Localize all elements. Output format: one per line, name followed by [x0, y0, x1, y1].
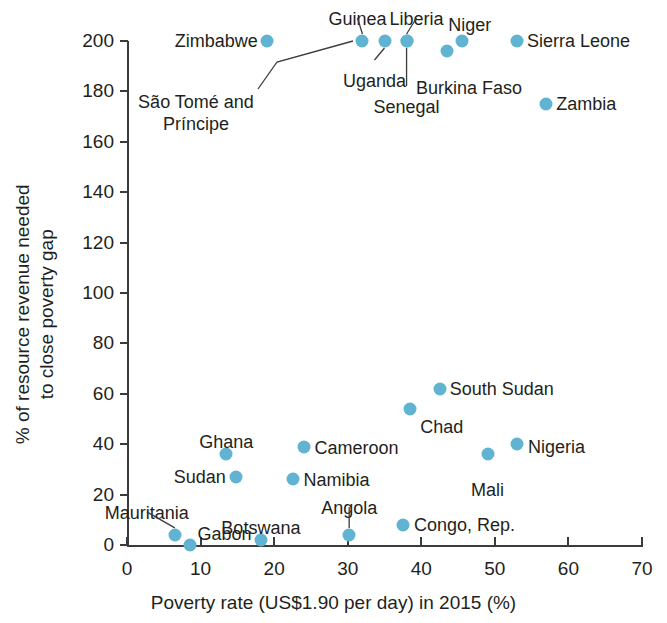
data-point[interactable]	[404, 402, 417, 415]
data-point-label: Congo, Rep.	[414, 515, 515, 535]
x-tick-label: 0	[122, 558, 133, 580]
y-tick-mark	[120, 191, 128, 193]
y-axis-title-line-2: to close poverty gap	[35, 104, 59, 524]
y-tick-mark	[120, 90, 128, 92]
data-point-label: Nigeria	[528, 437, 585, 457]
data-point[interactable]	[433, 382, 446, 395]
x-tick-label: 20	[264, 558, 285, 580]
data-point[interactable]	[229, 470, 242, 483]
x-tick-mark	[494, 537, 496, 545]
y-tick-mark	[120, 342, 128, 344]
data-point[interactable]	[356, 35, 369, 48]
data-point-label: Namibia	[304, 470, 370, 490]
data-point[interactable]	[260, 35, 273, 48]
y-tick-mark	[120, 242, 128, 244]
y-tick-label: 180	[56, 80, 114, 102]
data-point-label: Mali	[471, 480, 504, 500]
annotation-text: Príncipe	[163, 114, 229, 134]
y-tick-mark	[120, 292, 128, 294]
data-point-label: South Sudan	[450, 379, 554, 399]
data-point-label: Zambia	[556, 94, 616, 114]
data-point[interactable]	[540, 98, 553, 111]
data-point[interactable]	[481, 448, 494, 461]
data-point[interactable]	[396, 518, 409, 531]
x-tick-label: 70	[631, 558, 652, 580]
x-tick-mark	[641, 537, 643, 545]
data-point-label: Botswana	[221, 518, 300, 538]
y-tick-label: 120	[56, 232, 114, 254]
x-tick-mark	[567, 537, 569, 545]
y-tick-label: 140	[56, 181, 114, 203]
data-point-label: Uganda	[343, 71, 406, 91]
y-tick-mark	[120, 443, 128, 445]
annotation-text: São Tomé and	[138, 92, 254, 112]
plot-area: 010203040506070 020406080100120140160180…	[0, 0, 667, 623]
y-tick-label: 0	[56, 534, 114, 556]
y-tick-mark	[120, 40, 128, 42]
data-point[interactable]	[183, 539, 196, 552]
y-tick-label: 80	[56, 332, 114, 354]
data-point-label: Guinea	[328, 9, 386, 29]
data-point-label: Mauritania	[105, 503, 189, 523]
data-point-label: Niger	[448, 15, 491, 35]
y-tick-label: 100	[56, 282, 114, 304]
data-point[interactable]	[400, 35, 413, 48]
x-axis-line	[127, 545, 643, 547]
data-point[interactable]	[510, 35, 523, 48]
data-point-label: Burkina Faso	[416, 78, 522, 98]
data-point[interactable]	[168, 528, 181, 541]
data-point[interactable]	[441, 45, 454, 58]
data-point[interactable]	[510, 438, 523, 451]
data-point-label: Cameroon	[315, 438, 399, 458]
data-point[interactable]	[297, 440, 310, 453]
data-point-label: Sudan	[174, 467, 226, 487]
x-tick-label: 10	[190, 558, 211, 580]
y-tick-mark	[120, 544, 128, 546]
x-tick-label: 50	[484, 558, 505, 580]
x-tick-label: 40	[411, 558, 432, 580]
y-tick-mark	[120, 494, 128, 496]
y-axis-line	[127, 41, 129, 547]
data-point[interactable]	[455, 35, 468, 48]
data-point-label: Zimbabwe	[175, 31, 258, 51]
data-point-label: Chad	[420, 417, 463, 437]
y-tick-label: 40	[56, 433, 114, 455]
x-tick-label: 60	[558, 558, 579, 580]
y-tick-label: 60	[56, 383, 114, 405]
x-tick-mark	[273, 537, 275, 545]
data-point-label: Sierra Leone	[527, 31, 630, 51]
data-point[interactable]	[286, 473, 299, 486]
y-tick-mark	[120, 141, 128, 143]
x-axis-title: Poverty rate (US$1.90 per day) in 2015 (…	[0, 592, 667, 614]
y-axis-title-line-1: % of resource revenue needed	[11, 104, 35, 524]
y-tick-mark	[120, 393, 128, 395]
scatter-chart: 010203040506070 020406080100120140160180…	[0, 0, 667, 623]
data-point-label: Angola	[321, 498, 377, 518]
x-tick-label: 30	[337, 558, 358, 580]
data-point-label: Ghana	[199, 432, 253, 452]
y-tick-label: 160	[56, 131, 114, 153]
data-point[interactable]	[343, 528, 356, 541]
x-tick-mark	[420, 537, 422, 545]
data-point[interactable]	[378, 35, 391, 48]
y-axis-title: % of resource revenue needed to close po…	[11, 104, 60, 524]
data-point-label: Liberia	[390, 9, 444, 29]
data-point-label: Senegal	[374, 97, 440, 117]
y-tick-label: 200	[56, 30, 114, 52]
